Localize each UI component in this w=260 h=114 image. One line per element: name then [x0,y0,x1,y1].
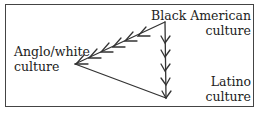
node-label-line: Latino [206,74,252,89]
node-latino-label: Latino culture [206,74,252,104]
node-label-line: Black American [151,8,251,23]
node-label-line: culture [151,23,251,38]
node-anglo-label: Anglo/white culture [14,44,90,74]
node-black-label: Black American culture [151,8,251,38]
node-label-line: culture [14,59,90,74]
node-label-line: culture [206,89,252,104]
node-label-line: Anglo/white [14,44,90,59]
